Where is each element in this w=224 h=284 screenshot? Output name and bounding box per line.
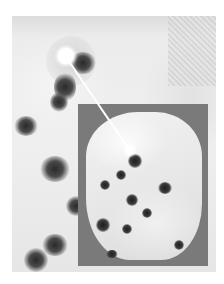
specimen-spot [158, 182, 172, 194]
specimen-spot [122, 224, 132, 234]
specimen-spot [174, 240, 184, 250]
micrograph-main [12, 16, 216, 272]
specimen-spot [126, 194, 138, 206]
specimen-spot [128, 154, 142, 168]
stained-cluster [50, 92, 68, 112]
region-marker [58, 48, 74, 64]
specimen-overview [86, 112, 202, 260]
specimen-spot [116, 170, 126, 180]
specimen-spot [142, 208, 152, 218]
stained-cluster [40, 156, 70, 182]
specimen-spot [100, 180, 110, 190]
inset-marker [126, 146, 134, 154]
specimen-inset [78, 104, 208, 266]
specimen-spot [106, 250, 118, 258]
stained-cluster [24, 248, 48, 272]
tissue-texture [168, 16, 216, 86]
stained-cluster [14, 116, 38, 136]
specimen-spot [96, 218, 110, 232]
